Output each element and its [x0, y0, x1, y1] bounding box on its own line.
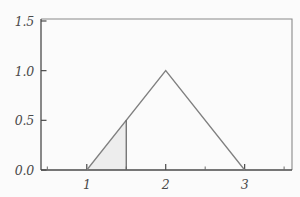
y-tick-label: 0.0 [15, 163, 34, 178]
y-axis-tick-marks [41, 21, 47, 170]
y-tick-label: 1.5 [15, 13, 34, 28]
y-tick-label: 0.5 [15, 113, 34, 128]
x-tick-label: 2 [162, 177, 170, 192]
plot-frame-border [41, 19, 292, 170]
y-tick-label: 1.0 [15, 63, 34, 78]
x-tick-label: 1 [83, 177, 91, 192]
plot-canvas [0, 0, 300, 197]
x-tick-label: 3 [241, 177, 249, 192]
chart-figure: 0.00.51.01.5 123 [0, 0, 300, 197]
